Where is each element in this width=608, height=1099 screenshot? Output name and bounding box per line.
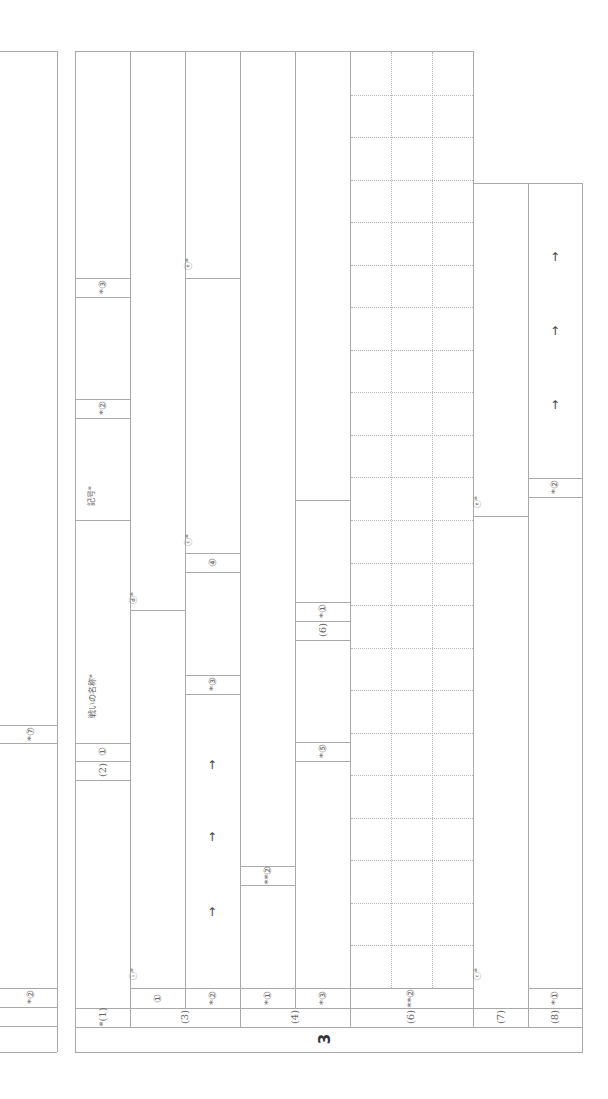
grid-line — [351, 690, 473, 691]
divider — [75, 520, 130, 521]
question-1-label: *(1) — [97, 1002, 109, 1032]
grid-line — [351, 392, 473, 393]
q3-3-label: *③ — [207, 669, 219, 699]
q7-e-label: ⓔ* — [472, 490, 484, 514]
battle-name-label: 戦いの名称* — [87, 661, 99, 731]
symbol-label: 記号* — [86, 476, 98, 516]
answer-box-7[interactable] — [0, 51, 57, 725]
grid-line — [351, 180, 473, 181]
answer-box-2[interactable] — [0, 743, 57, 988]
divider — [295, 51, 296, 1008]
divider — [295, 500, 350, 501]
q2-label: (2) — [97, 755, 109, 785]
grid-line — [351, 945, 473, 946]
q3-2-label: *② — [207, 983, 219, 1013]
q6-sub-label: (6) — [317, 615, 329, 645]
q3-i-label: ⓓ* — [128, 586, 140, 610]
grid-line — [351, 477, 473, 478]
divider — [75, 1052, 583, 1053]
divider — [57, 51, 58, 1052]
divider — [130, 51, 131, 1027]
q3-a-label: ⓘ* — [128, 962, 140, 986]
arrow-up-icon: ↑ — [550, 398, 560, 412]
q8-1-label: *① — [549, 983, 561, 1013]
divider — [473, 183, 528, 184]
grid-line — [351, 733, 473, 734]
q3-c-label: ⓒ* — [183, 528, 195, 552]
arrow-up-icon: ↑ — [207, 758, 217, 772]
q5-label: *⑤ — [317, 736, 329, 766]
grid-line — [351, 605, 473, 606]
divider — [528, 183, 529, 1027]
q7-c-label: ⓒ* — [472, 962, 484, 986]
arrow-up-icon: ↑ — [207, 905, 217, 919]
grid-line — [351, 520, 473, 521]
grid-line — [351, 818, 473, 819]
grid-line — [351, 222, 473, 223]
grid-line — [351, 307, 473, 308]
grid-line — [351, 350, 473, 351]
divider — [0, 1052, 57, 1053]
divider — [240, 51, 241, 1027]
q1-3-label: *③ — [97, 272, 109, 302]
arrow-up-icon: ↑ — [550, 324, 560, 338]
divider — [75, 51, 76, 1052]
q4-1-label: *① — [262, 983, 274, 1013]
divider — [473, 516, 528, 517]
grid-line — [351, 137, 473, 138]
q1-2-label: *② — [97, 393, 109, 423]
divider — [130, 610, 185, 611]
divider — [0, 1026, 57, 1027]
grid-line — [351, 775, 473, 776]
question-3-label: (3) — [179, 1002, 191, 1032]
divider — [185, 278, 240, 279]
grid-line — [351, 903, 473, 904]
q4-2-label: **② — [262, 860, 274, 890]
q4-3-label: *③ — [317, 983, 329, 1013]
q3-e-label: ⓔ* — [183, 252, 195, 276]
grid-line — [351, 860, 473, 861]
question-4-label: (4) — [289, 1002, 301, 1032]
grid-line — [351, 648, 473, 649]
grid-line — [351, 265, 473, 266]
q3-1-label: ① — [152, 983, 164, 1013]
section-number: 3 — [316, 1034, 334, 1044]
grid-line — [351, 435, 473, 436]
divider — [582, 183, 583, 1052]
grid-line — [351, 95, 473, 96]
q8-2-label: *② — [549, 472, 561, 502]
divider — [473, 51, 474, 1027]
grid-line — [351, 563, 473, 564]
arrow-up-icon: ↑ — [550, 250, 560, 264]
question-7-label: (7) — [495, 1002, 507, 1032]
q3-4-label: ④ — [207, 547, 219, 577]
arrow-up-icon: ↑ — [207, 830, 217, 844]
divider — [75, 51, 350, 52]
